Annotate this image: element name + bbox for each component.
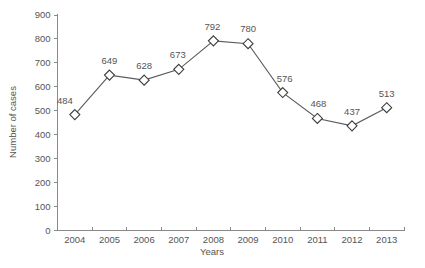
data-point-marker: [278, 88, 288, 98]
series-line-number-of-cases: [75, 41, 387, 126]
y-axis-title: Number of cases: [7, 86, 18, 158]
y-tick-label: 800: [35, 33, 51, 44]
y-tick-label: 500: [35, 105, 51, 116]
data-point-label: 792: [204, 21, 220, 32]
data-point-label: 576: [277, 73, 293, 84]
x-tick-label: 2008: [203, 234, 224, 245]
x-axis-tick-labels: 2004200520062007200820092010201120122013: [64, 234, 397, 245]
y-tick-label: 100: [35, 201, 51, 212]
data-point-label: 468: [310, 98, 326, 109]
x-tick-label: 2009: [238, 234, 259, 245]
data-point-label: 484: [57, 95, 73, 106]
y-tick-label: 0: [45, 225, 50, 236]
x-axis-ticks: [58, 227, 405, 231]
x-tick-label: 2006: [134, 234, 155, 245]
data-point-label: 780: [240, 23, 256, 34]
data-point-label: 649: [102, 55, 118, 66]
data-point-labels: 484649628673792780576468437513: [57, 21, 395, 117]
data-point-label: 513: [379, 88, 395, 99]
y-tick-label: 600: [35, 81, 51, 92]
chart-canvas: 0100200300400500600700800900 20042005200…: [0, 0, 425, 268]
y-tick-label: 400: [35, 129, 51, 140]
data-point-marker: [382, 103, 392, 113]
x-tick-label: 2013: [376, 234, 397, 245]
x-tick-label: 2012: [341, 234, 362, 245]
x-tick-label: 2004: [64, 234, 85, 245]
x-axis-title: Years: [200, 246, 224, 257]
x-tick-label: 2005: [99, 234, 120, 245]
line-chart: 0100200300400500600700800900 20042005200…: [0, 0, 425, 268]
data-point-label: 673: [170, 49, 186, 60]
data-point-label: 437: [344, 106, 360, 117]
y-tick-label: 900: [35, 9, 51, 20]
data-point-marker: [139, 75, 149, 85]
data-point-label: 628: [136, 60, 152, 71]
y-tick-label: 700: [35, 57, 51, 68]
y-axis-ticks: 0100200300400500600700800900: [35, 9, 58, 236]
y-tick-label: 200: [35, 177, 51, 188]
data-point-marker: [347, 121, 357, 131]
x-tick-label: 2010: [272, 234, 293, 245]
data-point-marker: [243, 39, 253, 49]
data-point-marker: [312, 113, 322, 123]
x-tick-label: 2007: [168, 234, 189, 245]
x-tick-label: 2011: [307, 234, 327, 245]
y-tick-label: 300: [35, 153, 51, 164]
